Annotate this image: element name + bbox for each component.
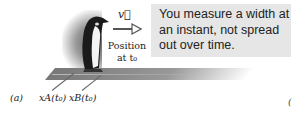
position-label-line2: at t₀ bbox=[104, 52, 150, 64]
position-label: Position at t₀ bbox=[104, 40, 150, 64]
position-label-line1: Position bbox=[104, 40, 150, 52]
panel-b-label: ( bbox=[288, 96, 292, 107]
floor-line bbox=[52, 74, 233, 75]
velocity-arrow-icon bbox=[112, 22, 142, 36]
xB-label: xB(t₀) bbox=[69, 92, 96, 103]
callout-box: You measure a width at an instant, not s… bbox=[151, 4, 291, 57]
panel-a-label: (a) bbox=[10, 92, 23, 103]
velocity-label: v⃗ bbox=[118, 8, 131, 21]
xA-label: xA(t₀) bbox=[39, 92, 66, 103]
